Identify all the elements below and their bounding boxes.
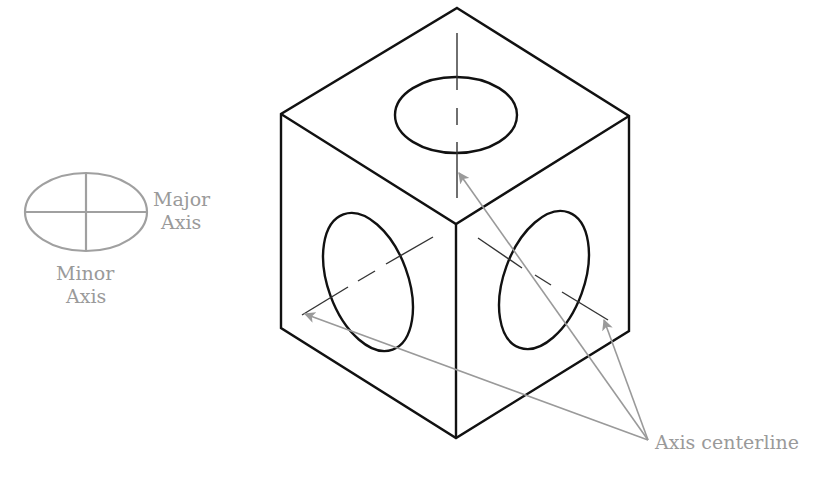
legend-ellipse	[25, 173, 147, 251]
top-face-hole	[395, 77, 517, 153]
arrow-to-left-centerline	[305, 314, 648, 440]
major-axis-label-line2: Axis	[160, 211, 201, 233]
axis-centerline-label: Axis centerline	[654, 431, 799, 453]
minor-axis-label-line1: Minor	[56, 262, 115, 284]
isometric-cube-diagram: Major Axis Minor Axis Axis centerline	[0, 0, 835, 481]
arrow-to-right-centerline	[604, 320, 648, 440]
left-face-hole	[306, 201, 430, 364]
minor-axis-label-line2: Axis	[65, 285, 106, 307]
arrow-to-top-centerline	[459, 173, 648, 440]
major-axis-label-line1: Major	[153, 188, 211, 210]
